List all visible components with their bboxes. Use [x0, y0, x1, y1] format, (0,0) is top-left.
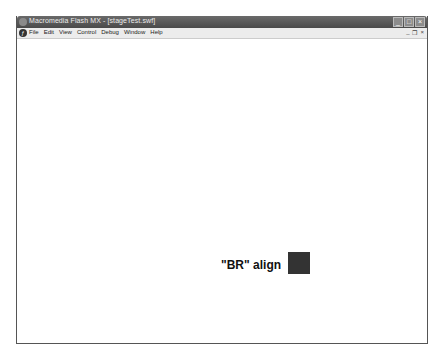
window-title: Macromedia Flash MX - [stageTest.swf]: [29, 17, 155, 24]
aligned-square: [288, 252, 310, 274]
menu-file[interactable]: File: [29, 29, 39, 35]
document-controls: _ ❐ ×: [406, 29, 424, 36]
doc-restore-button[interactable]: ❐: [412, 29, 417, 36]
flash-player-window: Macromedia Flash MX - [stageTest.swf] _ …: [16, 16, 428, 344]
close-button[interactable]: ×: [415, 17, 425, 27]
doc-minimize-button[interactable]: _: [406, 29, 409, 36]
minimize-button[interactable]: _: [393, 17, 403, 27]
menu-edit[interactable]: Edit: [44, 29, 54, 35]
flash-stage[interactable]: "BR" align: [17, 39, 427, 343]
menu-control[interactable]: Control: [77, 29, 96, 35]
flash-logo-icon[interactable]: ƒ: [19, 29, 27, 37]
app-icon: [19, 18, 27, 26]
menu-bar: ƒ File Edit View Control Debug Window He…: [17, 28, 427, 39]
menu-help[interactable]: Help: [150, 29, 162, 35]
menu-view[interactable]: View: [59, 29, 72, 35]
menu-debug[interactable]: Debug: [101, 29, 119, 35]
doc-close-button[interactable]: ×: [420, 29, 424, 36]
title-bar[interactable]: Macromedia Flash MX - [stageTest.swf] _ …: [17, 16, 427, 28]
menu-window[interactable]: Window: [124, 29, 145, 35]
align-label: "BR" align: [221, 258, 281, 272]
menu-items: File Edit View Control Debug Window Help: [29, 29, 163, 35]
maximize-button[interactable]: □: [404, 17, 414, 27]
window-controls: _ □ ×: [393, 17, 425, 27]
